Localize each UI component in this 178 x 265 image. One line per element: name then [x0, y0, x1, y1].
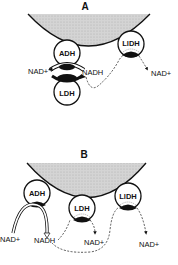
panel-a: A ADH LDH LlDH	[28, 1, 172, 105]
panel-a-nadh: NADH	[82, 68, 103, 77]
panel-b-lidh-nad-arrow	[137, 208, 146, 233]
panel-a-lidh-enzyme: LlDH	[118, 31, 144, 58]
panel-a-nadh-channel	[48, 64, 86, 82]
panel-a-nad-left: NAD+	[28, 67, 49, 76]
panel-a-ldh-label: LDH	[59, 89, 74, 98]
panel-a-lidh-label: LlDH	[122, 39, 140, 48]
panel-b-adh-label: ADH	[29, 189, 45, 198]
panel-b-nad-right: NAD+	[139, 240, 160, 249]
panel-b-nad-mid: NAD+	[84, 238, 105, 247]
panel-b-lidh-label: LlDH	[119, 192, 137, 201]
panel-b-ldh-label: LDH	[74, 204, 89, 213]
panel-a-adh-label: ADH	[59, 49, 75, 58]
panel-b-label: B	[80, 149, 87, 160]
panel-b-nadh-to-ldh-path	[58, 220, 70, 240]
panel-a-nad-right: NAD+	[151, 69, 172, 78]
metabolic-channeling-diagram: A ADH LDH LlDH	[0, 0, 178, 265]
panel-b-ldh-nad-arrow	[90, 220, 95, 233]
panel-a-label: A	[81, 1, 88, 12]
panel-a-ldh-enzyme: LDH	[54, 79, 80, 105]
panel-b-lidh-enzyme: LlDH	[115, 183, 141, 211]
panel-b-ldh-enzyme: LDH	[69, 195, 95, 223]
panel-b-nad-left: NAD+	[0, 235, 21, 244]
panel-b: B ADH LDH LlDH	[0, 149, 160, 252]
panel-b-nadh: NADH	[34, 236, 55, 245]
panel-b-adh-reaction-arrow	[13, 204, 50, 238]
panel-a-nad-release-arrow	[139, 56, 147, 69]
